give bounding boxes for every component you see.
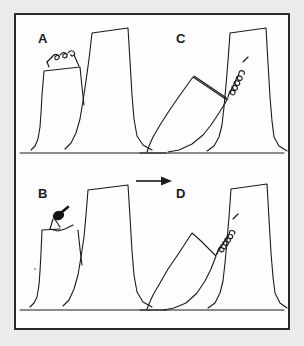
transition-arrow-icon bbox=[136, 177, 172, 186]
figure-frame: A B bbox=[14, 13, 290, 330]
figure-root: A B bbox=[0, 0, 304, 346]
scan-speck bbox=[34, 268, 36, 270]
transition-arrow-layer bbox=[16, 15, 288, 328]
